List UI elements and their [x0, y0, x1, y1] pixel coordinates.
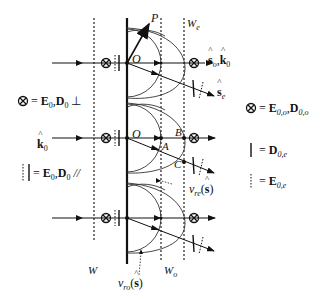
- label-p: P: [151, 12, 158, 24]
- label-a: A: [162, 141, 169, 152]
- legend-right-ordinary: = E0,o,D0,o: [259, 102, 308, 117]
- legend-right-d-extra: = D0,e: [259, 144, 287, 159]
- label-se: se: [217, 86, 225, 101]
- point-b: [182, 136, 186, 140]
- legend-right-otimes-symbol: [247, 104, 256, 113]
- point-c: [182, 160, 186, 164]
- label-k0: k0: [37, 138, 48, 153]
- label-w: W: [88, 265, 97, 276]
- legend-left-bars-symbol: [23, 164, 29, 181]
- legend-left-perp: = E0,D0 ⊥: [31, 95, 81, 110]
- point-o-mid: [125, 136, 129, 140]
- point-o-top: [125, 61, 129, 65]
- legend-right-e-extra: = E0,e: [259, 175, 286, 190]
- label-vro: vro(s): [118, 277, 143, 292]
- label-vre: vre(s): [189, 183, 213, 198]
- label-b: B: [175, 127, 182, 138]
- label-c: C: [174, 159, 181, 170]
- label-o-mid: O: [132, 128, 141, 140]
- label-so-k0: so,k0: [208, 54, 230, 69]
- legend-left-parallel: = E0,D0 //: [33, 167, 80, 182]
- label-wo: Wo: [164, 265, 177, 279]
- point-o-bottom: [125, 216, 129, 220]
- label-o-top: O: [132, 53, 141, 65]
- label-we: We: [187, 18, 200, 32]
- legend-left-otimes-symbol: [19, 97, 28, 106]
